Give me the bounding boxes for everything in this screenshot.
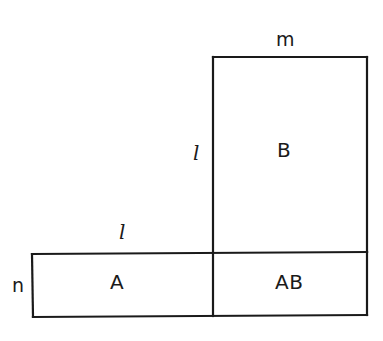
region-label-ab: AB bbox=[275, 272, 303, 292]
figure-background bbox=[0, 0, 383, 341]
figure-line-art bbox=[0, 0, 383, 341]
geometric-figure-canvas: m l l n B A AB bbox=[0, 0, 383, 341]
dimension-label-n: n bbox=[12, 276, 24, 295]
dimension-label-l-horizontal: l bbox=[119, 222, 125, 242]
edge-left-of-rect-a bbox=[32, 254, 33, 317]
region-label-b: B bbox=[277, 140, 291, 160]
region-label-a: A bbox=[110, 272, 124, 292]
dimension-label-l-vertical: l bbox=[193, 143, 199, 163]
dimension-label-m: m bbox=[276, 30, 295, 49]
